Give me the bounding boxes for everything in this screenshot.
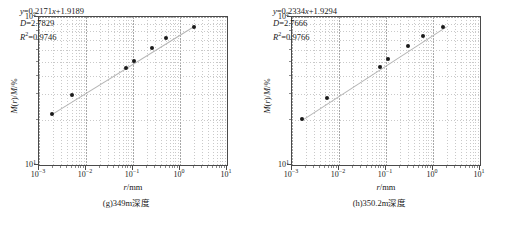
- x-tick-label: 10−3: [31, 168, 45, 179]
- data-point: [406, 44, 410, 48]
- x-axis-label-g: r/mm: [38, 182, 228, 192]
- data-point: [192, 25, 196, 29]
- x-tick-label: 100: [174, 168, 185, 179]
- x-tick-label: 10−1: [378, 168, 392, 179]
- y-tick-label: 102: [10, 11, 36, 22]
- data-point: [300, 117, 304, 121]
- caption-g: (g)349m深度: [0, 196, 253, 208]
- data-point: [386, 57, 390, 61]
- chart-panel-h: y=0.2334x+1.9294 D=2.7666 R2=0.9766 10−3…: [253, 0, 506, 229]
- y-axis-label-h: M(r)/M/%: [262, 46, 272, 146]
- data-point: [421, 34, 425, 38]
- y-tick-label: 102: [263, 11, 289, 22]
- x-tick-label: 10−1: [125, 168, 139, 179]
- data-point: [132, 59, 136, 63]
- x-tick-label: 10−2: [331, 168, 345, 179]
- data-point: [150, 46, 154, 50]
- chart-panel-g: y=0.2171x+1.9189 D=2.7829 R2=0.9746 10−3…: [0, 0, 253, 229]
- x-tick-label: 101: [221, 168, 232, 179]
- x-tick-label: 101: [474, 168, 485, 179]
- annotation-r2-g: R2=0.9746: [20, 29, 84, 43]
- data-point: [378, 65, 382, 69]
- y-tick-label: 101: [263, 159, 289, 170]
- data-point: [164, 36, 168, 40]
- caption-h: (h)350.2m深度: [253, 196, 506, 208]
- y-tick-label: 101: [10, 159, 36, 170]
- data-point: [70, 93, 74, 97]
- x-tick-label: 10−3: [284, 168, 298, 179]
- annotation-r2-h: R2=0.9766: [273, 29, 337, 43]
- data-point: [124, 66, 128, 70]
- y-axis-label-g: M(r)/M/%: [9, 46, 19, 146]
- data-point: [50, 112, 54, 116]
- data-point: [325, 96, 329, 100]
- x-axis-label-h: r/mm: [291, 182, 481, 192]
- figure-two-panel-log-log-charts: y=0.2171x+1.9189 D=2.7829 R2=0.9746 10−3…: [0, 0, 506, 229]
- x-tick-label: 10−2: [78, 168, 92, 179]
- x-tick-label: 100: [427, 168, 438, 179]
